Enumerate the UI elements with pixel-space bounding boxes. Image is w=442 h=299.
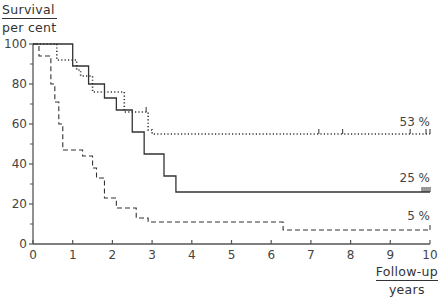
x-tick-label: 4: [188, 248, 196, 262]
x-tick-label: 1: [69, 248, 77, 262]
survival-chart: 020406080100012345678910 53 %25 %5 %: [0, 0, 442, 299]
x-tick-label: 6: [267, 248, 275, 262]
curve-end-label: 25 %: [400, 171, 431, 185]
x-tick-label: 3: [148, 248, 156, 262]
curve-end-label: 53 %: [400, 115, 431, 129]
curve-dotted: [33, 44, 430, 134]
x-tick-label: 2: [109, 248, 117, 262]
curve-end-label: 5 %: [407, 209, 430, 223]
x-tick-label: 7: [307, 248, 315, 262]
curve-solid: [33, 44, 430, 192]
y-tick-label: 80: [12, 77, 27, 91]
axes: 020406080100012345678910: [4, 37, 438, 262]
y-tick-label: 60: [12, 117, 27, 131]
y-tick-label: 20: [12, 197, 27, 211]
curve-end-labels: 53 %25 %5 %: [400, 115, 431, 223]
y-tick-label: 100: [4, 37, 27, 51]
x-tick-label: 9: [386, 248, 394, 262]
x-tick-label: 8: [347, 248, 355, 262]
x-tick-label: 0: [29, 248, 37, 262]
y-tick-label: 0: [19, 237, 27, 251]
survival-curves: [33, 44, 430, 230]
x-tick-label: 5: [228, 248, 236, 262]
y-tick-label: 40: [12, 157, 27, 171]
curve-dashed: [33, 44, 430, 230]
x-tick-label: 10: [422, 248, 437, 262]
